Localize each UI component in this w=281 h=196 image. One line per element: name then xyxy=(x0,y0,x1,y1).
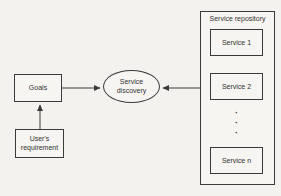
service-discovery-node: Service discovery xyxy=(103,70,160,103)
vertical-ellipsis: · · · xyxy=(201,108,272,138)
diagram-canvas: Goals User's requirement Service discove… xyxy=(0,0,281,196)
service-2-node: Service 2 xyxy=(210,73,263,100)
goals-node: Goals xyxy=(14,74,62,102)
service-n-label: Service n xyxy=(222,157,251,164)
service-2-label: Service 2 xyxy=(222,83,251,90)
user-requirement-label: User's requirement xyxy=(21,135,58,152)
user-requirement-node: User's requirement xyxy=(15,129,64,158)
service-1-label: Service 1 xyxy=(222,39,251,46)
service-repository-container: Service repository Service 1 Service 2 ·… xyxy=(200,11,275,185)
service-discovery-label: Service discovery xyxy=(117,78,147,95)
service-n-node: Service n xyxy=(210,147,263,174)
goals-label: Goals xyxy=(29,84,47,93)
service-1-node: Service 1 xyxy=(210,29,263,56)
service-repository-title: Service repository xyxy=(201,15,274,23)
